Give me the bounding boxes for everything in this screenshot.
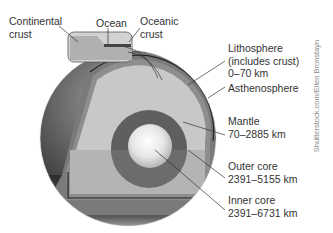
label-lithosphere: Lithosphere (includes crust) 0–70 km bbox=[228, 42, 299, 80]
label-oceanic-crust: Oceanic crust bbox=[140, 15, 179, 40]
label-line: 0–70 km bbox=[228, 67, 299, 80]
label-line: Lithosphere bbox=[228, 42, 299, 55]
label-outer-core: Outer core 2391–5155 km bbox=[228, 160, 297, 185]
label-line: Oceanic bbox=[140, 15, 179, 28]
label-line: Inner core bbox=[228, 194, 297, 207]
label-inner-core: Inner core 2391–6731 km bbox=[228, 194, 297, 219]
label-line: Outer core bbox=[228, 160, 297, 173]
globe bbox=[40, 50, 220, 233]
label-line: crust bbox=[9, 28, 62, 41]
label-line: (includes crust) bbox=[228, 55, 299, 68]
label-line: Mantle bbox=[228, 115, 286, 128]
label-line: 2391–5155 km bbox=[228, 173, 297, 186]
label-asthenosphere: Asthenosphere bbox=[228, 82, 299, 95]
label-mantle: Mantle 70–2885 km bbox=[228, 115, 286, 140]
label-continental-crust: Continental crust bbox=[9, 15, 62, 40]
label-line: Ocean bbox=[96, 17, 127, 30]
label-line: 70–2885 km bbox=[228, 128, 286, 141]
label-line: Asthenosphere bbox=[228, 82, 299, 95]
label-line: Continental bbox=[9, 15, 62, 28]
image-credit: Shutterstock.com/Ellen Bronstayn bbox=[312, 40, 321, 153]
label-line: 2391–6731 km bbox=[228, 207, 297, 220]
label-ocean: Ocean bbox=[96, 17, 127, 30]
label-line: crust bbox=[140, 28, 179, 41]
